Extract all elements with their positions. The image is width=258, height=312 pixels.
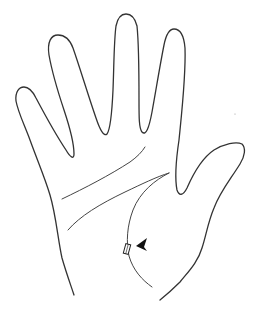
palm-line-thenar xyxy=(127,173,169,287)
palm-line-lower xyxy=(68,173,169,230)
arrowhead-pointer-left xyxy=(136,238,147,251)
hand-svg xyxy=(0,0,258,312)
hand-outline xyxy=(16,14,245,300)
rectangle-marker xyxy=(123,244,130,255)
hand-diagram xyxy=(0,0,258,312)
speck xyxy=(234,113,235,114)
